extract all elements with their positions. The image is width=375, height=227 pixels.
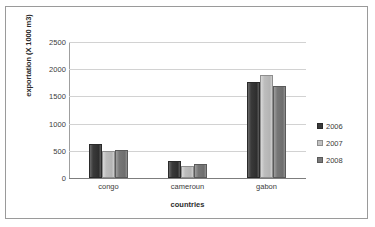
bar-cameroun-2008 bbox=[194, 164, 207, 178]
x-tick-label: cameroun bbox=[171, 182, 204, 191]
bar-group bbox=[148, 42, 227, 178]
y-tick-label: 2000 bbox=[49, 65, 66, 74]
bar-gabon-2008 bbox=[273, 86, 286, 178]
y-tick-label: 0 bbox=[62, 174, 66, 183]
bar-gabon-2007 bbox=[260, 75, 273, 178]
legend-swatch-icon bbox=[317, 140, 323, 146]
y-axis-tick-labels: 05001000150020002500 bbox=[30, 42, 66, 178]
y-tick-label: 500 bbox=[53, 146, 66, 155]
legend-label: 2007 bbox=[326, 139, 343, 148]
x-tick-label: gabon bbox=[256, 182, 277, 191]
chart-legend: 200620072008 bbox=[317, 119, 343, 170]
x-axis-title: countries bbox=[69, 200, 306, 209]
bar-group bbox=[227, 42, 306, 178]
bar-congo-2006 bbox=[89, 144, 102, 178]
bar-group bbox=[69, 42, 148, 178]
legend-item-2008[interactable]: 2008 bbox=[317, 153, 343, 167]
bar-cameroun-2006 bbox=[168, 161, 181, 178]
legend-item-2006[interactable]: 2006 bbox=[317, 119, 343, 133]
x-axis-line bbox=[69, 178, 306, 179]
y-tick-label: 1000 bbox=[49, 119, 66, 128]
bar-cameroun-2007 bbox=[181, 166, 194, 178]
legend-swatch-icon bbox=[317, 157, 323, 163]
bar-congo-2007 bbox=[102, 151, 115, 178]
y-tick-label: 1500 bbox=[49, 92, 66, 101]
x-axis-tick-labels: congocameroungabon bbox=[69, 182, 306, 196]
legend-item-2007[interactable]: 2007 bbox=[317, 136, 343, 150]
x-tick-label: congo bbox=[98, 182, 118, 191]
legend-swatch-icon bbox=[317, 123, 323, 129]
plot-area bbox=[69, 42, 306, 178]
legend-label: 2006 bbox=[326, 122, 343, 131]
y-tick-label: 2500 bbox=[49, 38, 66, 47]
legend-label: 2008 bbox=[326, 156, 343, 165]
bar-chart: exportation (X 1000 m3) 0500100015002000… bbox=[6, 7, 369, 220]
bar-gabon-2006 bbox=[247, 82, 260, 178]
bar-congo-2008 bbox=[115, 150, 128, 178]
chart-frame: exportation (X 1000 m3) 0500100015002000… bbox=[5, 6, 368, 219]
